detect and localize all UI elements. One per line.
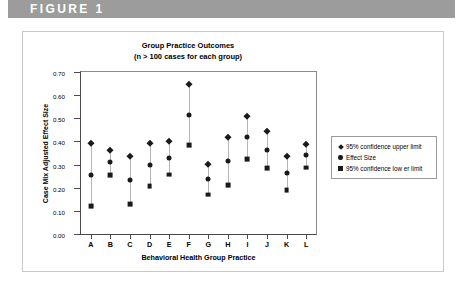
y-axis-tick: 0.00	[74, 234, 81, 235]
data-point-marker	[107, 146, 113, 152]
legend-item[interactable]: Effect Size	[336, 152, 433, 163]
x-axis-tick-label: B	[108, 240, 113, 249]
data-point-marker	[166, 138, 172, 144]
y-axis-tick: 0.50	[74, 118, 81, 119]
figure-banner-label: FIGURE 1	[8, 3, 105, 15]
legend-item[interactable]: 95% confidence upper limit	[336, 141, 433, 152]
data-point-marker	[264, 128, 270, 134]
legend-circle-icon	[336, 155, 345, 159]
y-axis-tick-label: 0.00	[53, 232, 65, 239]
data-point-marker	[186, 143, 191, 148]
chart-panel: Group Practice Outcomes (n > 100 cases f…	[22, 31, 444, 272]
data-point-marker	[265, 166, 270, 171]
data-point-marker	[265, 147, 270, 152]
data-point-marker	[304, 165, 309, 170]
x-axis-tick	[208, 234, 209, 239]
x-axis-tick-label: L	[304, 240, 308, 249]
legend-item-label: 95% confidence low er limit	[345, 165, 422, 172]
y-axis-tick-label: 0.10	[53, 208, 65, 215]
y-axis-tick-label: 0.30	[53, 162, 65, 169]
y-axis-tick: 0.10	[74, 211, 81, 212]
legend-diamond-icon	[336, 145, 345, 149]
data-point-marker	[147, 162, 152, 167]
x-axis-tick-label: E	[167, 240, 172, 249]
data-point-marker	[245, 135, 250, 140]
x-axis-tick-label: H	[225, 240, 230, 249]
data-point-marker	[205, 161, 211, 167]
chart-subtitle: (n > 100 cases for each group)	[23, 51, 353, 62]
data-point-marker	[225, 134, 231, 140]
x-axis-tick-label: J	[265, 240, 269, 249]
data-point-marker	[283, 153, 289, 159]
legend-item-label: Effect Size	[345, 154, 376, 161]
x-axis-tick	[110, 234, 111, 239]
x-axis-tick-label: G	[205, 240, 211, 249]
data-point-marker	[284, 171, 289, 176]
plot-area: 0.000.100.200.300.400.500.600.70ABCDEFGH…	[80, 71, 317, 235]
y-axis-tick-label: 0.50	[53, 116, 65, 123]
x-axis-tick	[130, 234, 131, 239]
legend-square-icon	[336, 166, 345, 170]
data-point-marker	[167, 155, 172, 160]
x-axis-tick	[267, 234, 268, 239]
x-axis-tick	[150, 234, 151, 239]
y-axis-title-label: Case Mix Adjusted Effect Size	[43, 103, 50, 202]
y-axis-tick-label: 0.70	[53, 70, 65, 77]
chart-title-block: Group Practice Outcomes (n > 100 cases f…	[23, 40, 353, 62]
data-point-marker	[88, 203, 93, 208]
legend-item[interactable]: 95% confidence low er limit	[336, 163, 433, 174]
chart-legend: 95% confidence upper limitEffect Size95%…	[331, 136, 437, 179]
y-axis-tick: 0.20	[74, 188, 81, 189]
data-point-marker	[108, 160, 113, 165]
data-point-marker	[88, 172, 93, 177]
data-point-marker	[127, 153, 133, 159]
data-point-marker	[88, 139, 94, 145]
y-axis-tick: 0.30	[74, 165, 81, 166]
y-axis-tick-label: 0.60	[53, 93, 65, 100]
data-point-marker	[304, 153, 309, 158]
chart-title: Group Practice Outcomes	[23, 40, 353, 51]
data-point-marker	[225, 159, 230, 164]
data-point-marker	[244, 113, 250, 119]
data-point-marker	[147, 183, 152, 188]
x-axis-tick	[169, 234, 170, 239]
data-point-marker	[284, 188, 289, 193]
data-point-marker	[127, 178, 132, 183]
data-point-marker	[128, 202, 133, 207]
x-axis-tick	[91, 234, 92, 239]
x-axis-tick-label: D	[147, 240, 152, 249]
data-point-marker	[225, 183, 230, 188]
x-axis-tick-label: K	[284, 240, 289, 249]
y-axis-tick: 0.40	[74, 141, 81, 142]
data-point-marker	[206, 176, 211, 181]
x-axis-title: Behavioral Health Group Practice	[80, 253, 317, 262]
x-axis-tick-label: F	[187, 240, 191, 249]
y-axis-tick-label: 0.20	[53, 185, 65, 192]
data-point-marker	[167, 172, 172, 177]
x-axis-tick-label: C	[127, 240, 132, 249]
data-point-marker	[146, 140, 152, 146]
x-axis-tick	[228, 234, 229, 239]
x-axis-tick	[189, 234, 190, 239]
data-point-marker	[206, 192, 211, 197]
x-axis-tick	[306, 234, 307, 239]
data-point-marker	[108, 173, 113, 178]
legend-item-label: 95% confidence upper limit	[345, 143, 422, 150]
y-axis-tick: 0.70	[74, 72, 81, 73]
y-axis-title: Case Mix Adjusted Effect Size	[41, 71, 51, 235]
y-axis-tick-label: 0.40	[53, 139, 65, 146]
x-axis-tick-label: I	[246, 240, 248, 249]
x-axis-tick	[247, 234, 248, 239]
data-point-marker	[303, 140, 309, 146]
figure-banner: FIGURE 1	[8, 0, 455, 18]
data-point-marker	[185, 81, 191, 87]
y-axis-tick: 0.60	[74, 95, 81, 96]
data-point-marker	[186, 112, 191, 117]
data-point-marker	[245, 157, 250, 162]
x-axis-tick-label: A	[88, 240, 93, 249]
x-axis-tick	[287, 234, 288, 239]
